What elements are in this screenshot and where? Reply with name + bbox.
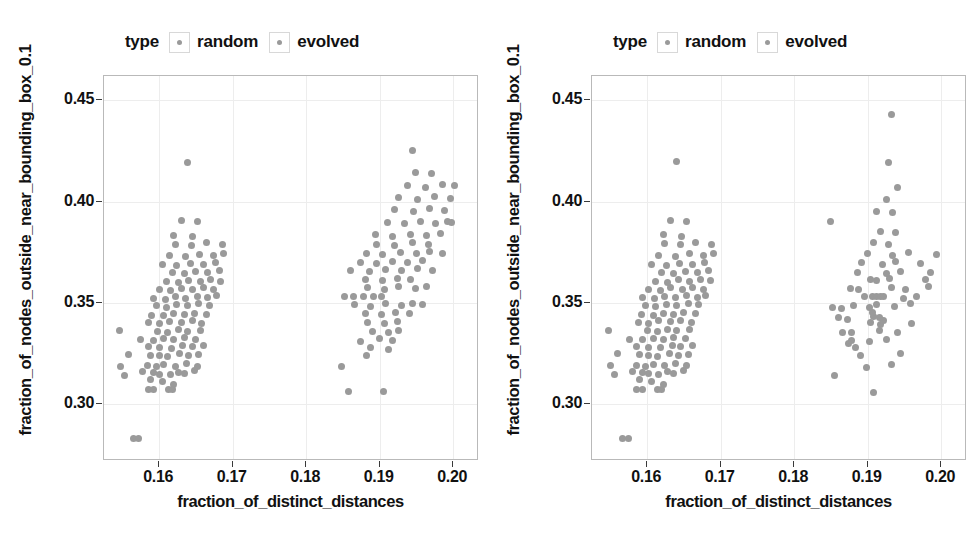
legend-marker-icon <box>765 40 770 45</box>
data-point <box>116 327 123 334</box>
data-point <box>198 320 205 327</box>
data-point <box>848 337 855 344</box>
data-point <box>121 372 128 379</box>
data-point <box>395 283 402 290</box>
data-point <box>172 363 179 370</box>
data-point <box>203 311 210 318</box>
y-tick-mark <box>96 302 102 303</box>
data-point <box>689 342 696 349</box>
x-tick-label: 0.16 <box>128 468 188 486</box>
data-point <box>163 278 170 285</box>
data-point <box>392 309 399 316</box>
data-point <box>179 342 186 349</box>
legend-marker-icon <box>665 40 670 45</box>
data-point <box>876 327 883 334</box>
data-point <box>404 182 411 189</box>
data-point <box>607 362 614 369</box>
data-point <box>166 252 173 259</box>
data-point <box>679 286 686 293</box>
data-point <box>660 336 667 343</box>
data-point <box>184 302 191 309</box>
data-point <box>367 303 374 310</box>
data-point <box>633 362 640 369</box>
data-point <box>605 327 612 334</box>
data-point <box>414 265 421 272</box>
data-point <box>181 270 188 277</box>
data-point <box>219 241 226 248</box>
data-point <box>639 294 646 301</box>
data-point <box>897 268 904 275</box>
x-tick-label: 0.19 <box>837 468 897 486</box>
data-point <box>217 278 224 285</box>
data-point <box>189 343 196 350</box>
gridline-vertical <box>794 76 795 459</box>
data-point <box>357 338 364 345</box>
data-point <box>397 249 404 256</box>
data-point <box>879 261 886 268</box>
data-point <box>370 293 377 300</box>
data-point <box>220 250 227 257</box>
data-point <box>639 386 646 393</box>
data-point <box>675 352 682 359</box>
data-point <box>636 351 643 358</box>
data-point <box>135 435 142 442</box>
data-point <box>685 351 692 358</box>
data-point <box>883 336 890 343</box>
data-point <box>888 284 895 291</box>
data-point <box>366 268 373 275</box>
data-point <box>694 294 701 301</box>
data-point <box>827 218 834 225</box>
legend-key-random[interactable] <box>169 32 190 53</box>
data-point <box>364 319 371 326</box>
data-point <box>894 184 901 191</box>
data-point <box>847 285 854 292</box>
data-point <box>156 344 163 351</box>
data-point <box>644 327 651 334</box>
data-point <box>153 302 160 309</box>
x-tick-label: 0.17 <box>202 468 262 486</box>
data-point <box>406 310 413 317</box>
data-point <box>183 360 190 367</box>
data-point <box>661 293 668 300</box>
data-point <box>831 372 838 379</box>
data-point <box>673 327 680 334</box>
x-tick-mark <box>305 461 306 467</box>
gridline-vertical <box>306 76 307 459</box>
data-point <box>873 277 880 284</box>
data-point <box>648 261 655 268</box>
data-point <box>682 268 689 275</box>
x-tick-mark <box>940 461 941 467</box>
data-point <box>908 320 915 327</box>
data-point <box>378 311 385 318</box>
data-point <box>389 233 396 240</box>
data-point <box>677 241 684 248</box>
data-point <box>870 239 877 246</box>
gridline-vertical <box>453 76 454 459</box>
data-point <box>398 267 405 274</box>
legend-key-evolved[interactable] <box>269 32 290 53</box>
data-point <box>889 209 896 216</box>
data-point <box>419 257 426 264</box>
data-point <box>892 258 899 265</box>
x-tick-label: 0.20 <box>910 468 970 486</box>
data-point <box>117 363 124 370</box>
data-point <box>676 260 683 267</box>
data-point <box>451 182 458 189</box>
legend-key-evolved[interactable] <box>757 32 778 53</box>
x-tick-mark <box>720 461 721 467</box>
legend-title: type <box>613 32 647 52</box>
data-point <box>635 319 642 326</box>
data-point <box>341 293 348 300</box>
legend-title: type <box>125 32 159 52</box>
data-point <box>413 250 420 257</box>
y-tick-mark <box>96 201 102 202</box>
data-point <box>672 253 679 260</box>
data-point <box>670 270 677 277</box>
data-point <box>922 276 929 283</box>
legend-key-random[interactable] <box>657 32 678 53</box>
data-point <box>147 376 154 383</box>
data-point <box>873 301 880 308</box>
data-point <box>212 259 219 266</box>
data-point <box>701 259 708 266</box>
data-point <box>173 262 180 269</box>
